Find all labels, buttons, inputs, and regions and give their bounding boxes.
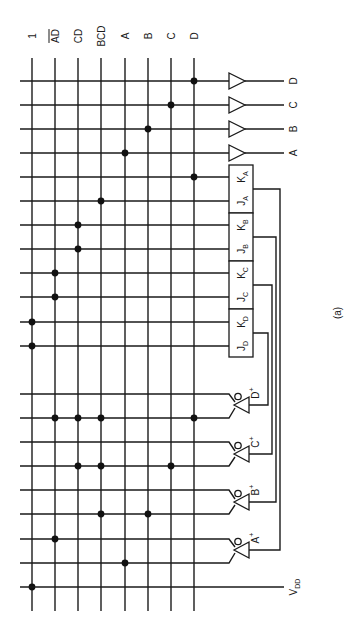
inversion-bubble-icon (235, 538, 241, 544)
buffer-triangle-icon (229, 97, 245, 113)
gate-label-A-plus: A+ (248, 533, 261, 544)
dot-out-B-B (145, 126, 152, 133)
column-labels: 1ADCDBCDABCD (27, 25, 200, 46)
gate-input-line-B-1 (20, 490, 235, 499)
dot-KB-CD (75, 222, 82, 229)
column-label-D: D (189, 32, 200, 39)
dot-Dplus-2-AD (52, 415, 59, 422)
pla-counter-diagram: 1ADCDBCDABCD DCBA KAJAKBJBKCJCKDJD D+C+B… (0, 0, 360, 626)
dot-Dplus-2-D (191, 415, 198, 422)
dot-Aplus-2-A (122, 560, 129, 567)
gate-label-B-plus: B+ (248, 485, 261, 496)
column-label-AD: AD (50, 29, 61, 43)
dot-Bplus-2-BCD (98, 511, 105, 518)
dot-Dplus-2-CD (75, 415, 82, 422)
output-label-B: B (288, 125, 299, 132)
dot-KD-one (29, 319, 36, 326)
dot-Cplus-2-C (168, 463, 175, 470)
output-label-C: C (288, 101, 299, 108)
gate-label-D-plus: D+ (248, 387, 261, 398)
dot-KC-AD (52, 270, 59, 277)
dot-KA-D (191, 174, 198, 181)
dot-out-C-C (168, 102, 175, 109)
column-label-CD: CD (73, 29, 84, 43)
output-label-D: D (288, 77, 299, 84)
jk-flip-flops: KAJAKBJBKCJCKDJD (229, 165, 253, 357)
column-label-BCD: BCD (96, 25, 107, 46)
dot-JB-CD (75, 246, 82, 253)
column-label-C: C (166, 32, 177, 39)
gate-input-line-C-1 (20, 442, 235, 451)
gate-label-C-plus: C+ (248, 436, 261, 447)
figure-caption: (a) (332, 307, 343, 319)
inversion-bubble-icon (235, 490, 241, 496)
output-buffers: DCBA (229, 73, 299, 161)
dot-JA-BCD (98, 198, 105, 205)
column-label-B: B (143, 32, 154, 39)
dot-Aplus-1-AD (52, 536, 59, 543)
inversion-bubble-icon (235, 442, 241, 448)
buffer-triangle-icon (229, 73, 245, 89)
buffer-triangle-icon (229, 121, 245, 137)
dot-JD-one (29, 343, 36, 350)
dot-Cplus-2-CD (75, 463, 82, 470)
vdd-supply: VDD (20, 579, 301, 596)
dot-JC-AD (52, 294, 59, 301)
column-label-one: 1 (27, 33, 38, 39)
dot-Bplus-2-B (145, 511, 152, 518)
gate-input-line-B-2 (20, 505, 235, 514)
gate-input-line-D-1 (20, 394, 235, 402)
caption-label: (a) (332, 307, 343, 319)
output-label-A: A (288, 149, 299, 156)
buffer-triangle-icon (229, 145, 245, 161)
product-term-columns (32, 58, 194, 611)
dot-out-D-D (191, 78, 198, 85)
column-label-A: A (120, 32, 131, 39)
dot-Dplus-2-BCD (98, 415, 105, 422)
dot-out-A-A (122, 150, 129, 157)
inversion-bubble-icon (235, 393, 241, 399)
dot-Cplus-2-BCD (98, 463, 105, 470)
vdd-label: VDD (288, 579, 301, 596)
gate-input-line-C-2 (20, 457, 235, 466)
